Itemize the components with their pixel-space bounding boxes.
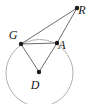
geometry-figure: G A R D xyxy=(0,0,93,104)
geometry-canvas: G A R D xyxy=(0,0,93,104)
point-label-D: D xyxy=(30,78,40,92)
point-G xyxy=(19,42,23,46)
point-label-R: R xyxy=(77,3,86,17)
point-label-A: A xyxy=(57,38,66,52)
segment-GA xyxy=(21,43,57,44)
point-label-G: G xyxy=(9,28,18,42)
segment-GR xyxy=(21,8,77,44)
segment-AD xyxy=(39,43,57,72)
segment-GD xyxy=(21,44,39,72)
point-D xyxy=(37,70,41,74)
